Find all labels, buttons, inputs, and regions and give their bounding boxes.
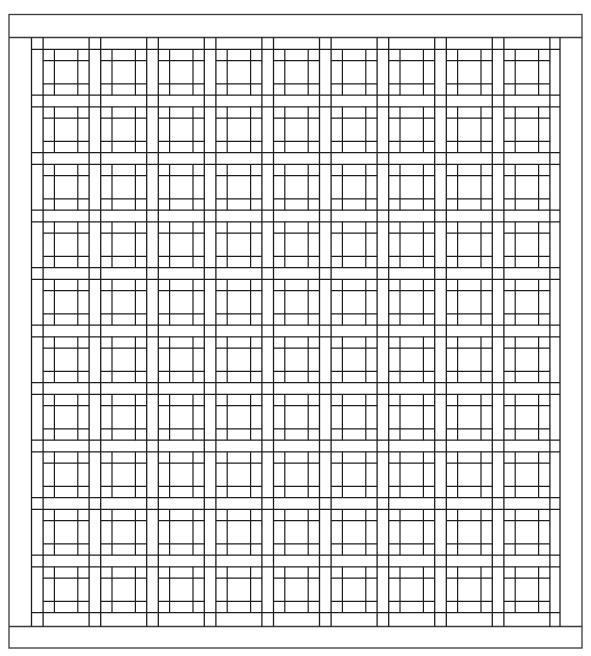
quilt-block [389,394,435,440]
block-inner-grids [43,49,550,612]
quilt-block [158,452,204,498]
quilt-block [446,337,492,383]
quilt-block [101,279,147,325]
quilt-block [158,567,204,613]
quilt-block [274,337,320,383]
quilt-block [504,279,550,325]
quilt-block [158,107,204,153]
quilt-block [101,222,147,268]
quilt-block [446,394,492,440]
quilt-block [158,222,204,268]
quilt-block [274,567,320,613]
quilt-block [101,452,147,498]
quilt-block [216,452,262,498]
quilt-block [389,164,435,210]
quilt-block [43,337,89,383]
quilt-block [446,452,492,498]
quilt-block [158,279,204,325]
quilt-block [101,509,147,555]
quilt-block [446,107,492,153]
quilt-block [274,279,320,325]
quilt-block [43,107,89,153]
quilt-block [389,49,435,95]
quilt-block [389,337,435,383]
quilt-block [504,222,550,268]
lattice-grid-drawing [0,0,591,656]
quilt-block [158,164,204,210]
quilt-block [43,567,89,613]
quilt-block [504,107,550,153]
quilt-block [216,509,262,555]
quilt-block [274,394,320,440]
quilt-block [101,337,147,383]
quilt-block [43,222,89,268]
quilt-block [43,279,89,325]
quilt-block [101,49,147,95]
quilt-block [504,49,550,95]
quilt-block [274,107,320,153]
quilt-block [331,509,377,555]
quilt-block [389,107,435,153]
quilt-block [101,164,147,210]
quilt-block [389,452,435,498]
quilt-block [216,567,262,613]
quilt-block [216,222,262,268]
quilt-block [446,164,492,210]
quilt-block [43,509,89,555]
quilt-block [331,49,377,95]
quilt-block [504,509,550,555]
quilt-block [331,107,377,153]
outer-frame [9,15,582,649]
quilt-block [331,279,377,325]
quilt-block [216,107,262,153]
quilt-block [446,279,492,325]
quilt-block [274,452,320,498]
quilt-block [101,567,147,613]
quilt-block [216,49,262,95]
quilt-block [446,567,492,613]
quilt-block [389,509,435,555]
quilt-block [504,452,550,498]
quilt-block [158,509,204,555]
quilt-block [216,164,262,210]
quilt-block [446,222,492,268]
quilt-block [274,164,320,210]
quilt-block [43,49,89,95]
quilt-block [331,452,377,498]
quilt-block [389,567,435,613]
quilt-block [389,222,435,268]
quilt-block [101,394,147,440]
quilt-block [504,337,550,383]
quilt-block [331,394,377,440]
quilt-block [504,567,550,613]
quilt-block [389,279,435,325]
quilt-block [43,394,89,440]
quilt-block [216,337,262,383]
quilt-block [331,164,377,210]
quilt-block [274,222,320,268]
quilt-block [101,107,147,153]
quilt-block [274,509,320,555]
quilt-block [274,49,320,95]
quilt-block [158,337,204,383]
quilt-block [331,222,377,268]
quilt-block [446,509,492,555]
quilt-block [216,279,262,325]
quilt-block [43,452,89,498]
quilt-block [43,164,89,210]
quilt-block [446,49,492,95]
quilt-block [504,394,550,440]
quilt-block [216,394,262,440]
quilt-block [158,394,204,440]
quilt-block [331,567,377,613]
quilt-block [504,164,550,210]
quilt-block [158,49,204,95]
quilt-block [331,337,377,383]
